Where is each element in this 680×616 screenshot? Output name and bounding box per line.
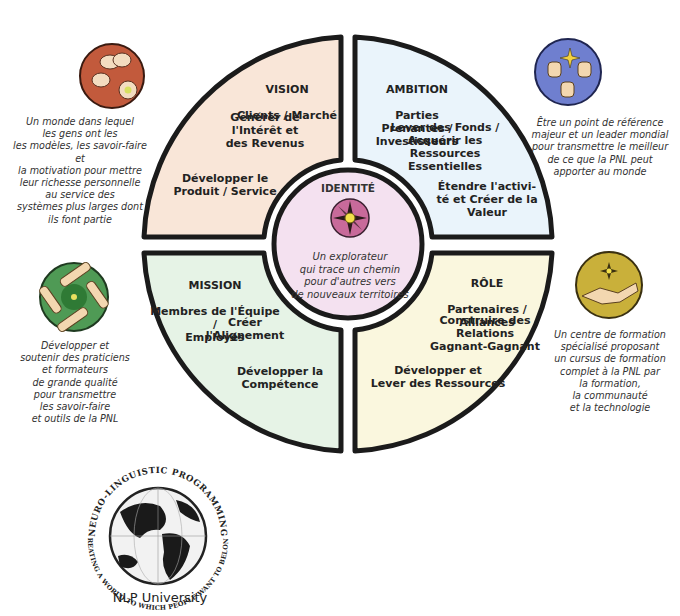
thumbs-up-icon	[535, 39, 601, 105]
nlp-vision-diagram: NEURO-LINGUISTIC PROGRAMMING CREATING A …	[0, 0, 680, 616]
mission-item-2: Développer la Compétence	[225, 365, 335, 391]
role-side-note: Un centre de formation spécialisé propos…	[540, 329, 680, 414]
vision-title: VISION	[222, 83, 352, 96]
mission-header: MISSION Membres de l'Équipe / Employés	[150, 266, 280, 357]
mission-item-1: Créer l'Alignement	[190, 316, 300, 342]
mission-side-note: Développer et soutenir des praticiens et…	[2, 340, 148, 425]
ambition-item-2: Étendre l'activi- té et Créer de la Vale…	[432, 180, 542, 219]
vision-item-1: Générer de l'Intérêt et des Revenus	[200, 111, 330, 150]
handshake-icon	[576, 252, 642, 318]
role-item-1: Construire des Relations Gagnant-Gagnant	[415, 314, 555, 353]
role-title: RÔLE	[432, 277, 542, 290]
compass-star-icon	[331, 199, 369, 237]
ambition-item-1: Lever des Fonds / Acquérir les Ressource…	[385, 121, 505, 173]
identity-title: IDENTITÉ	[298, 182, 398, 194]
identity-description: Un explorateur qui trace un chemin pour …	[288, 251, 412, 301]
vision-item-2: Développer le Produit / Service	[155, 172, 295, 198]
ambition-side-note: Être un point de référence majeur et un …	[520, 117, 680, 178]
vision-side-note: Un monde dans lequel les gens ont les le…	[8, 116, 152, 226]
role-item-2: Développer et Lever des Ressources	[363, 364, 513, 390]
ambition-title: AMBITION	[362, 83, 472, 96]
mission-title: MISSION	[150, 279, 280, 292]
logo-label: NLP University	[100, 590, 220, 605]
linked-hands-icon	[38, 261, 110, 333]
reaching-hands-icon	[80, 44, 144, 108]
